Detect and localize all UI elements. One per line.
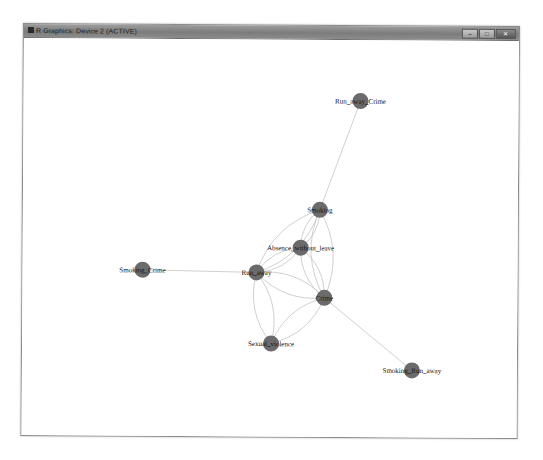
node-label: Sexual_violence xyxy=(248,340,294,348)
graph-edge xyxy=(271,298,324,344)
graph-edge xyxy=(324,298,412,371)
node-label: Absence_without_leave xyxy=(267,244,334,252)
r-graphics-window: R Graphics: Device 2 (ACTIVE) – □ ✕ Run_… xyxy=(20,23,520,439)
node-label: Smoking_Crime xyxy=(119,266,165,274)
node-label: Smoking xyxy=(307,206,333,214)
graph-nodes: Run_away_CrimeSmokingAbsence_without_lea… xyxy=(119,92,444,379)
node-label: Run_away_Crime xyxy=(335,98,386,106)
graph-edge xyxy=(320,101,361,210)
graph-edges xyxy=(142,100,414,371)
node-label: Crime xyxy=(316,294,334,302)
graph-edge xyxy=(271,298,324,344)
graph-edge xyxy=(300,248,324,298)
network-graph: Run_away_CrimeSmokingAbsence_without_lea… xyxy=(0,1,543,460)
node-label: Run_away xyxy=(241,269,271,277)
graph-edge xyxy=(256,272,274,343)
node-label: Smoking_Run_away xyxy=(382,367,441,375)
graph-edge xyxy=(300,248,324,298)
graph-edge xyxy=(319,210,333,298)
plot-area: Run_away_CrimeSmokingAbsence_without_lea… xyxy=(21,38,518,438)
